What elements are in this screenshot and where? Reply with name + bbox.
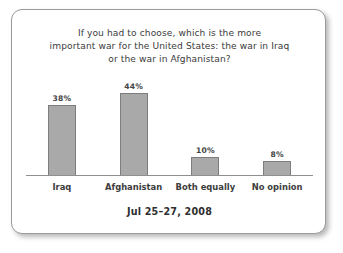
bar-slot-iraq: 38%	[26, 82, 98, 176]
chart-title-line-1: If you had to choose, which is the more	[24, 27, 315, 40]
chart-title: If you had to choose, which is the more …	[24, 27, 315, 67]
bar-chart-plot-area: 38% 44% 10% 8%	[26, 82, 313, 176]
bar-both-equally	[191, 157, 219, 176]
bar-slot-no-opinion: 8%	[241, 82, 313, 176]
bar-iraq	[48, 105, 76, 176]
screenshot-root: If you had to choose, which is the more …	[0, 0, 343, 253]
poll-date-caption: Jul 25–27, 2008	[24, 206, 315, 217]
category-label-row: Iraq Afghanistan Both equally No opinion	[26, 182, 313, 198]
bar-afghanistan	[120, 93, 148, 176]
bar-value-afghanistan: 44%	[124, 82, 143, 91]
bar-slot-afghanistan: 44%	[98, 82, 170, 176]
category-label-no-opinion: No opinion	[241, 182, 313, 192]
category-label-iraq: Iraq	[26, 182, 98, 192]
chart-title-line-2: important war for the United States: the…	[24, 40, 315, 53]
bar-value-iraq: 38%	[52, 94, 71, 103]
bar-value-no-opinion: 8%	[270, 150, 283, 159]
bar-no-opinion	[263, 161, 291, 176]
x-axis-baseline	[26, 175, 313, 176]
category-label-both-equally: Both equally	[170, 182, 242, 192]
bar-slot-both-equally: 10%	[170, 82, 242, 176]
bar-value-both-equally: 10%	[196, 146, 215, 155]
poll-result-card: If you had to choose, which is the more …	[11, 9, 326, 234]
chart-title-line-3: or the war in Afghanistan?	[24, 53, 315, 66]
category-label-afghanistan: Afghanistan	[98, 182, 170, 192]
